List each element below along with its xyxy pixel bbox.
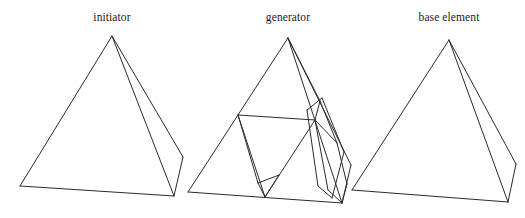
- initiator-edge-apex-front-left: [20, 36, 112, 186]
- generator-midline-left-right: [238, 115, 315, 120]
- generator-top-sub-right-edge: [315, 101, 320, 120]
- initiator-edge-right-base: [174, 157, 183, 196]
- base-element-edge-right-base: [508, 164, 516, 202]
- base-element-tetrahedron: [352, 40, 516, 202]
- base-element-edge-apex-back-right: [449, 40, 516, 164]
- base-element-edge-front-base: [352, 190, 508, 202]
- initiator-edge-apex-front-right: [112, 36, 174, 196]
- initiator-edge-apex-back-right: [112, 36, 183, 157]
- base-element-edge-apex-front-right: [449, 40, 508, 202]
- label-initiator: initiator: [93, 12, 130, 24]
- tetrahedra-diagram: [0, 0, 525, 218]
- generator-left-sub-right-edge: [258, 175, 279, 183]
- generator-top-sub-back-edge: [288, 38, 320, 101]
- label-generator: generator: [266, 12, 310, 24]
- generator-right-sub-base-edge: [342, 184, 347, 203]
- label-base-element: base element: [419, 12, 480, 24]
- initiator-edge-front-base: [20, 186, 174, 196]
- generator-tetrahedron: [188, 38, 351, 203]
- generator-back-sub-top-edge: [322, 98, 344, 152]
- initiator-tetrahedron: [20, 36, 183, 196]
- base-element-edge-apex-front-left: [352, 40, 449, 190]
- figure-container: initiator generator base element: [0, 0, 525, 218]
- generator-right-sub-down-edge: [337, 143, 347, 184]
- generator-left-sub-lower-edge: [265, 175, 279, 197]
- generator-left-sub-back-edge: [238, 115, 258, 183]
- generator-top-sub-diagonal: [320, 101, 337, 143]
